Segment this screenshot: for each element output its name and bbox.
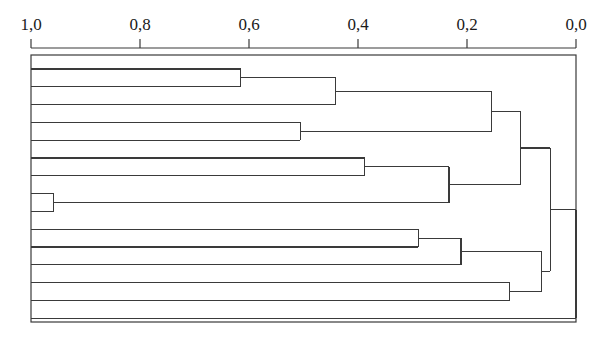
axis-tick-label-3: 0,4 bbox=[347, 15, 369, 34]
axis-tick-label-0: 1,0 bbox=[20, 15, 41, 34]
dendrogram-svg: 1,00,80,60,40,20,0 bbox=[0, 0, 601, 337]
axis-tick-label-4: 0,2 bbox=[456, 15, 477, 34]
figure-background bbox=[0, 0, 601, 337]
axis-tick-label-1: 0,8 bbox=[129, 15, 150, 34]
axis-tick-label-5: 0,0 bbox=[565, 15, 586, 34]
axis-tick-label-2: 0,6 bbox=[238, 15, 259, 34]
dendrogram-figure: 1,00,80,60,40,20,0 bbox=[0, 0, 601, 337]
